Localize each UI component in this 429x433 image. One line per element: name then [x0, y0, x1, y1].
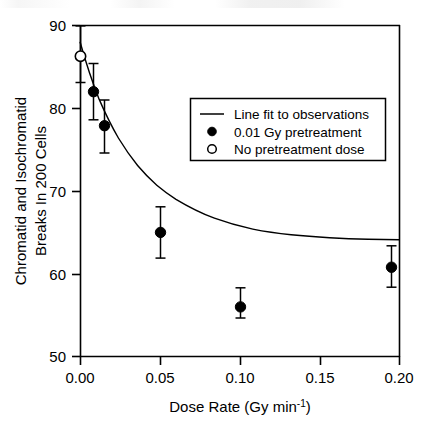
legend-label-no-pretreatment: No pretreatment dose — [234, 142, 365, 157]
x-axis-title-paren: ) — [306, 398, 311, 415]
legend-symbol-open-circle — [208, 145, 217, 154]
y-tick-label-60: 60 — [49, 266, 66, 283]
y-axis-title-line2: Breaks In 200 Cells — [32, 126, 49, 256]
y-axis-title: Chromatid and Isochromatid Breaks In 200… — [12, 97, 49, 285]
legend-label-fit: Line fit to observations — [234, 107, 369, 122]
data-point-open-0 — [75, 51, 85, 61]
x-tick-label-015: 0.15 — [305, 369, 334, 386]
data-point-filled-0 — [88, 87, 98, 97]
y-axis-title-line1: Chromatid and Isochromatid — [12, 97, 29, 285]
y-tick-label-80: 80 — [49, 100, 66, 117]
legend: Line fit to observations 0.01 Gy pretrea… — [191, 99, 386, 161]
y-axis-ticks — [72, 26, 80, 357]
x-tick-label-020: 0.20 — [384, 369, 413, 386]
data-point-filled-2 — [155, 227, 165, 237]
x-axis-title-main: Dose Rate (Gy min — [169, 398, 297, 415]
legend-label-pretreatment: 0.01 Gy pretreatment — [234, 125, 362, 140]
error-bars — [76, 26, 397, 319]
y-axis-tick-labels: 90 80 70 60 50 — [49, 17, 66, 365]
x-tick-label-010: 0.10 — [225, 369, 254, 386]
x-tick-label-000: 0.00 — [65, 369, 94, 386]
x-axis-ticks — [81, 357, 400, 366]
x-tick-label-005: 0.05 — [145, 369, 174, 386]
x-axis-title: Dose Rate (Gy min-1) — [169, 398, 310, 415]
chart-figure: 90 80 70 60 50 0.00 0.05 0.10 0.15 0.20 … — [0, 0, 429, 433]
svg-text:Dose Rate (Gy min-1): Dose Rate (Gy min-1) — [169, 398, 310, 415]
x-axis-tick-labels: 0.00 0.05 0.10 0.15 0.20 — [65, 369, 413, 386]
y-tick-label-50: 50 — [49, 348, 66, 365]
y-tick-label-70: 70 — [49, 183, 66, 200]
data-point-filled-1 — [99, 121, 109, 131]
scatter-plot: 90 80 70 60 50 0.00 0.05 0.10 0.15 0.20 … — [0, 0, 429, 433]
data-markers — [75, 51, 396, 312]
legend-symbol-filled-circle — [208, 127, 217, 136]
y-tick-label-90: 90 — [49, 17, 66, 34]
data-point-filled-4 — [386, 262, 396, 272]
data-point-filled-3 — [235, 302, 245, 312]
